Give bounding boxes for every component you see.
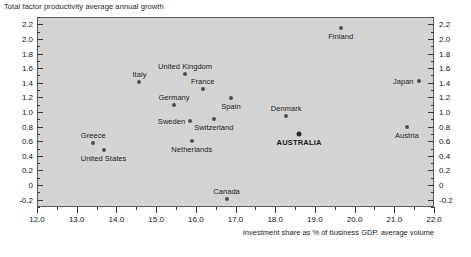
x-axis-tick	[196, 207, 197, 213]
y-axis-tick-label-left: 2.0	[2, 34, 33, 43]
y-axis-tick-label-right: 2.2	[439, 20, 450, 29]
y-axis-tick-left	[37, 105, 40, 106]
y-axis-tick-left	[37, 39, 43, 40]
y-axis-tick-right	[431, 90, 434, 91]
y-axis-tick-left	[37, 149, 40, 150]
x-axis-tick	[315, 207, 316, 213]
y-axis-tick-left	[37, 97, 43, 98]
y-axis-tick-left	[37, 61, 40, 62]
y-axis-tick-label-right: 2.0	[439, 34, 450, 43]
data-point-marker[interactable]	[201, 87, 205, 91]
y-axis-tick-label-left: 1.0	[2, 108, 33, 117]
y-axis-tick-label-left: 1.6	[2, 64, 33, 73]
y-axis-tick-right	[431, 178, 434, 179]
y-axis-tick-right	[428, 83, 434, 84]
data-point-marker[interactable]	[225, 197, 229, 201]
data-point-label: Switzerland	[194, 123, 233, 132]
data-point-label: Germany	[158, 93, 189, 102]
data-point-marker[interactable]	[297, 131, 302, 136]
x-axis-tick	[335, 207, 336, 210]
y-axis-tick-right	[431, 163, 434, 164]
y-axis-tick-left	[37, 17, 40, 18]
y-axis-tick-label-right: 1.2	[439, 93, 450, 102]
x-axis-tick	[394, 207, 395, 213]
y-axis-tick-right	[431, 105, 434, 106]
y-axis-tick-left	[37, 156, 43, 157]
x-axis-tick	[37, 207, 38, 213]
x-axis-tick-label: 17.0	[228, 215, 244, 224]
y-axis-tick-right	[431, 149, 434, 150]
y-axis-tick-right	[428, 185, 434, 186]
x-axis-tick-label: 16.0	[188, 215, 204, 224]
y-axis-tick-right	[428, 68, 434, 69]
x-axis-tick-label: 22.0	[426, 215, 442, 224]
plot-area	[37, 17, 434, 207]
y-axis-tick-left	[37, 185, 43, 186]
y-axis-tick-left	[37, 163, 40, 164]
x-axis-tick	[414, 207, 415, 210]
y-axis-tick-label-right: 0	[439, 181, 443, 190]
y-axis-tick-left	[37, 170, 43, 171]
y-axis-tick-left	[37, 112, 43, 113]
scatter-chart: Total factor productivity average annual…	[0, 0, 471, 257]
data-point-marker[interactable]	[102, 148, 106, 152]
y-axis-tick-left	[37, 90, 40, 91]
y-axis-tick-left	[37, 127, 43, 128]
y-axis-tick-label-right: 1.4	[439, 78, 450, 87]
data-point-label: Canada	[213, 187, 240, 196]
x-axis-tick	[374, 207, 375, 210]
data-point-marker[interactable]	[188, 119, 192, 123]
y-axis-tick-label-right: 1.8	[439, 49, 450, 58]
data-point-label: United States	[81, 154, 127, 163]
data-point-marker[interactable]	[284, 114, 288, 118]
x-axis-tick-label: 20.0	[347, 215, 363, 224]
x-axis-label: Investment share as % of business GDP, a…	[243, 228, 434, 237]
data-point-marker[interactable]	[339, 26, 343, 30]
data-point-marker[interactable]	[229, 96, 233, 100]
y-axis-tick-right	[431, 46, 434, 47]
y-axis-tick-left	[37, 119, 40, 120]
y-axis-tick-right	[428, 141, 434, 142]
x-axis-tick	[236, 207, 237, 213]
x-axis-tick	[275, 207, 276, 213]
y-axis-tick-right	[431, 134, 434, 135]
data-point-label: AUSTRALIA	[277, 138, 322, 147]
y-axis-tick-left	[37, 54, 43, 55]
data-point-marker[interactable]	[190, 139, 194, 143]
x-axis-tick	[355, 207, 356, 213]
y-axis-tick-label-right: 0.4	[439, 151, 450, 160]
data-point-marker[interactable]	[91, 141, 95, 145]
y-axis-tick-right	[428, 156, 434, 157]
x-axis-tick-label: 21.0	[387, 215, 403, 224]
y-axis-tick-right	[428, 39, 434, 40]
data-point-marker[interactable]	[212, 117, 216, 121]
y-axis-tick-label-right: 1.0	[439, 108, 450, 117]
y-axis-tick-label-left: 1.8	[2, 49, 33, 58]
y-axis-tick-right	[428, 24, 434, 25]
y-axis-tick-label-left: 0.8	[2, 122, 33, 131]
data-point-marker[interactable]	[137, 80, 141, 84]
y-axis-tick-right	[431, 17, 434, 18]
data-point-marker[interactable]	[405, 125, 409, 129]
x-axis-tick-label: 14.0	[109, 215, 125, 224]
x-axis-tick	[77, 207, 78, 213]
x-axis-tick-label: 19.0	[307, 215, 323, 224]
data-point-label: Greece	[81, 131, 106, 140]
x-axis-tick	[136, 207, 137, 210]
y-axis-tick-right	[431, 119, 434, 120]
data-point-marker[interactable]	[172, 103, 176, 107]
y-axis-tick-right	[428, 97, 434, 98]
x-axis-tick-label: 13.0	[69, 215, 85, 224]
data-point-marker[interactable]	[417, 79, 421, 83]
data-point-marker[interactable]	[183, 72, 187, 76]
y-axis-tick-left	[37, 178, 40, 179]
y-axis-tick-left	[37, 83, 43, 84]
x-axis-tick	[434, 207, 435, 213]
y-axis-tick-label-left: 0.4	[2, 151, 33, 160]
chart-title: Total factor productivity average annual…	[4, 2, 164, 11]
y-axis-tick-label-right: -0.2	[439, 195, 453, 204]
y-axis-tick-left	[37, 192, 40, 193]
y-axis-tick-label-right: 0.6	[439, 137, 450, 146]
data-point-label: Netherlands	[171, 145, 212, 154]
y-axis-tick-label-left: -0.2	[2, 195, 33, 204]
